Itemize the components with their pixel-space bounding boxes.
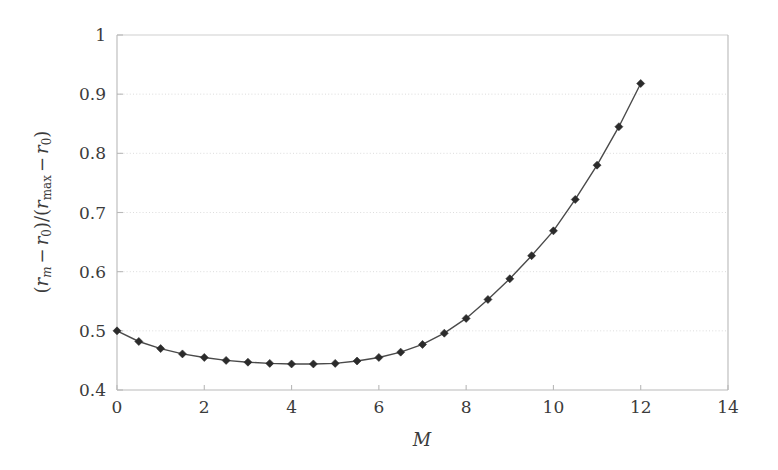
x-tick-marks-group <box>117 385 728 390</box>
svg-text:(rm−r0)/(rmax−r0): (rm−r0)/(rmax−r0) <box>31 131 54 294</box>
y-tick-labels-group: 0.40.50.60.70.80.91 <box>79 25 106 400</box>
y-axis-title: (rm−r0)/(rmax−r0) <box>31 131 54 294</box>
data-point-marker <box>222 356 230 364</box>
data-point-marker <box>113 327 121 335</box>
data-point-marker <box>178 350 186 358</box>
data-point-marker <box>419 340 427 348</box>
y-tick-label-0.8: 0.8 <box>79 143 106 163</box>
y-tick-label-0.5: 0.5 <box>79 321 106 341</box>
data-point-marker <box>397 348 405 356</box>
y-tick-label-1: 1 <box>95 25 106 45</box>
data-series-group <box>117 84 641 364</box>
x-tick-label-14: 14 <box>717 397 739 417</box>
ylabel-open-paren-1: ( <box>31 286 52 293</box>
ylabel-sub-0-a: 0 <box>40 229 54 237</box>
chart-canvas: 02468101214 0.40.50.60.70.80.91 M (rm−r0… <box>0 0 778 470</box>
ylabel-sub-max: max <box>40 175 54 201</box>
data-point-marker <box>157 345 165 353</box>
ylabel-minus-1: − <box>31 248 52 263</box>
ylabel-open-paren-2: ( <box>31 209 52 216</box>
data-point-marker <box>135 337 143 345</box>
y-tick-label-0.6: 0.6 <box>79 262 106 282</box>
ylabel-sub-0-b: 0 <box>40 138 54 146</box>
x-tick-label-10: 10 <box>543 397 565 417</box>
data-point-marker <box>353 357 361 365</box>
data-point-marker <box>637 80 645 88</box>
y-tick-label-0.9: 0.9 <box>79 84 106 104</box>
data-point-marker <box>615 123 623 131</box>
y-tick-label-0.7: 0.7 <box>79 203 106 223</box>
x-tick-label-4: 4 <box>286 397 297 417</box>
ylabel-close-paren-1: ) <box>31 222 52 229</box>
x-tick-label-6: 6 <box>373 397 384 417</box>
ylabel-sub-m: m <box>40 266 54 277</box>
x-tick-label-12: 12 <box>630 397 652 417</box>
data-point-marker <box>331 359 339 367</box>
ylabel-close-paren-2: ) <box>31 131 52 138</box>
x-tick-label-8: 8 <box>461 397 472 417</box>
data-point-marker <box>375 353 383 361</box>
x-tick-labels-group: 02468101214 <box>112 397 739 417</box>
y-tick-marks-group <box>117 35 123 390</box>
data-point-marker <box>309 360 317 368</box>
data-point-marker <box>288 360 296 368</box>
gridlines-group <box>117 35 728 331</box>
chart-figure: 02468101214 0.40.50.60.70.80.91 M (rm−r0… <box>0 0 778 470</box>
data-point-marker <box>593 161 601 169</box>
data-point-marker <box>200 353 208 361</box>
y-tick-label-0.4: 0.4 <box>79 380 106 400</box>
data-markers-group <box>113 80 645 368</box>
data-point-marker <box>266 359 274 367</box>
x-tick-label-0: 0 <box>112 397 123 417</box>
data-point-marker <box>244 358 252 366</box>
x-axis-title: M <box>412 429 432 450</box>
series-line-0 <box>117 84 641 364</box>
ylabel-minus-2: − <box>31 157 52 172</box>
x-tick-label-2: 2 <box>199 397 210 417</box>
